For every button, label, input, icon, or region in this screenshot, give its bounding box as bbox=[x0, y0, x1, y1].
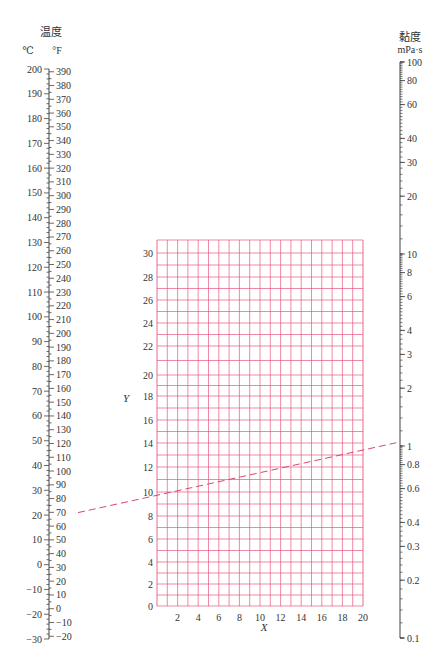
celsius-tick-label: −30 bbox=[26, 634, 42, 645]
fahrenheit-tick-label: 30 bbox=[56, 562, 66, 573]
fahrenheit-tick-label: 380 bbox=[56, 80, 71, 91]
fahrenheit-tick-label: 70 bbox=[56, 507, 66, 518]
fahrenheit-tick-label: 280 bbox=[56, 218, 71, 229]
fahrenheit-tick-label: 90 bbox=[56, 479, 66, 490]
fahrenheit-tick-label: 290 bbox=[56, 204, 71, 215]
viscosity-tick-label: 0.3 bbox=[407, 541, 420, 552]
y-tick-label: 20 bbox=[143, 370, 153, 381]
fahrenheit-tick-label: 110 bbox=[56, 452, 71, 463]
fahrenheit-tick-label: 0 bbox=[56, 603, 61, 614]
celsius-tick-label: 60 bbox=[32, 410, 42, 421]
x-tick-label: 18 bbox=[337, 612, 347, 623]
viscosity-tick-label: 4 bbox=[407, 325, 412, 336]
y-tick-label: 16 bbox=[143, 415, 153, 426]
temperature-axis: 温度℃°F20019018017016015014013012011010090… bbox=[22, 25, 71, 645]
viscosity-tick-label: 2 bbox=[407, 383, 412, 394]
viscosity-tick-label: 60 bbox=[407, 99, 417, 110]
viscosity-tick-label: 0.4 bbox=[407, 517, 420, 528]
y-tick-label: 18 bbox=[143, 391, 153, 402]
x-tick-label: 6 bbox=[216, 612, 221, 623]
y-tick-label: 24 bbox=[143, 318, 153, 329]
viscosity-title: 黏度 bbox=[399, 30, 421, 43]
celsius-tick-label: −10 bbox=[26, 584, 42, 595]
viscosity-tick-label: 0.1 bbox=[407, 633, 420, 644]
viscosity-tick-label: 100 bbox=[407, 57, 422, 68]
x-tick-label: 14 bbox=[296, 612, 306, 623]
fahrenheit-tick-label: 60 bbox=[56, 521, 66, 532]
fahrenheit-tick-label: 320 bbox=[56, 163, 71, 174]
celsius-tick-label: 100 bbox=[27, 311, 42, 322]
celsius-tick-label: 110 bbox=[27, 287, 42, 298]
fahrenheit-tick-label: 340 bbox=[56, 135, 71, 146]
viscosity-tick-label: 80 bbox=[407, 75, 417, 86]
viscosity-axis: 黏度mPa·s1008060403020108643210.80.60.40.3… bbox=[398, 30, 423, 644]
fahrenheit-tick-label: 310 bbox=[56, 176, 71, 187]
fahrenheit-tick-label: 180 bbox=[56, 355, 71, 366]
fahrenheit-tick-label: 350 bbox=[56, 121, 71, 132]
fahrenheit-tick-label: 170 bbox=[56, 369, 71, 380]
x-tick-label: 2 bbox=[175, 612, 180, 623]
celsius-tick-label: 120 bbox=[27, 262, 42, 273]
x-tick-label: 12 bbox=[276, 612, 286, 623]
x-tick-label: 8 bbox=[237, 612, 242, 623]
celsius-tick-label: 70 bbox=[32, 386, 42, 397]
viscosity-tick-label: 40 bbox=[407, 133, 417, 144]
viscosity-tick-label: 0.2 bbox=[407, 575, 420, 586]
fahrenheit-tick-label: −10 bbox=[56, 617, 72, 628]
y-tick-label: 30 bbox=[143, 248, 153, 259]
fahrenheit-tick-label: 150 bbox=[56, 397, 71, 408]
celsius-tick-label: 40 bbox=[32, 460, 42, 471]
viscosity-tick-label: 30 bbox=[407, 157, 417, 168]
fahrenheit-tick-label: 240 bbox=[56, 273, 71, 284]
fahrenheit-tick-label: 260 bbox=[56, 245, 71, 256]
viscosity-tick-label: 6 bbox=[407, 291, 412, 302]
nomograph-chart: 温度℃°F20019018017016015014013012011010090… bbox=[0, 0, 442, 663]
x-tick-label: 16 bbox=[317, 612, 327, 623]
celsius-tick-label: 150 bbox=[27, 187, 42, 198]
viscosity-unit: mPa·s bbox=[398, 44, 423, 55]
fahrenheit-tick-label: 230 bbox=[56, 287, 71, 298]
fahrenheit-tick-label: 160 bbox=[56, 383, 71, 394]
fahrenheit-tick-label: 330 bbox=[56, 149, 71, 160]
celsius-tick-label: 160 bbox=[27, 163, 42, 174]
fahrenheit-tick-label: 300 bbox=[56, 190, 71, 201]
x-axis-label: X bbox=[260, 621, 269, 633]
fahrenheit-tick-label: 50 bbox=[56, 534, 66, 545]
viscosity-tick-label: 0.8 bbox=[407, 459, 420, 470]
fahrenheit-tick-label: 20 bbox=[56, 576, 66, 587]
celsius-tick-label: 80 bbox=[32, 361, 42, 372]
celsius-tick-label: 30 bbox=[32, 485, 42, 496]
fahrenheit-tick-label: 140 bbox=[56, 410, 71, 421]
celsius-tick-label: 130 bbox=[27, 237, 42, 248]
fahrenheit-tick-label: 220 bbox=[56, 300, 71, 311]
viscosity-tick-label: 3 bbox=[407, 349, 412, 360]
celsius-tick-label: 0 bbox=[37, 559, 42, 570]
fahrenheit-tick-label: 100 bbox=[56, 466, 71, 477]
fahrenheit-tick-label: 200 bbox=[56, 328, 71, 339]
fahrenheit-tick-label: 130 bbox=[56, 424, 71, 435]
viscosity-tick-label: 10 bbox=[407, 249, 417, 260]
fahrenheit-tick-label: 10 bbox=[56, 589, 66, 600]
fahrenheit-tick-label: 250 bbox=[56, 259, 71, 270]
celsius-tick-label: 200 bbox=[27, 64, 42, 75]
celsius-tick-label: 90 bbox=[32, 336, 42, 347]
celsius-tick-label: 190 bbox=[27, 88, 42, 99]
viscosity-tick-label: 8 bbox=[407, 267, 412, 278]
y-tick-label: 22 bbox=[143, 341, 153, 352]
fahrenheit-tick-label: 370 bbox=[56, 94, 71, 105]
y-tick-label: 12 bbox=[143, 462, 153, 473]
celsius-unit: ℃ bbox=[22, 45, 33, 56]
celsius-tick-label: 180 bbox=[27, 113, 42, 124]
y-axis-label: Y bbox=[123, 392, 131, 404]
viscosity-tick-label: 20 bbox=[407, 191, 417, 202]
celsius-tick-label: 140 bbox=[27, 212, 42, 223]
fahrenheit-tick-label: 120 bbox=[56, 438, 71, 449]
x-tick-label: 20 bbox=[358, 612, 368, 623]
celsius-tick-label: 170 bbox=[27, 138, 42, 149]
fahrenheit-tick-label: 40 bbox=[56, 548, 66, 559]
fahrenheit-tick-label: 360 bbox=[56, 108, 71, 119]
fahrenheit-unit: °F bbox=[52, 45, 62, 56]
fahrenheit-tick-label: 80 bbox=[56, 493, 66, 504]
fahrenheit-tick-label: −20 bbox=[56, 631, 72, 642]
y-tick-label: 28 bbox=[143, 272, 153, 283]
